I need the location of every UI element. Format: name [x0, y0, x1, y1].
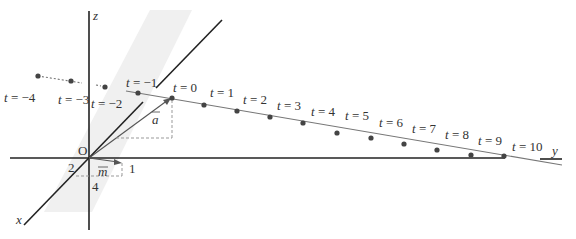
line-point [300, 120, 305, 125]
point-label: t = 5 [345, 108, 369, 123]
line-point [334, 130, 339, 135]
line-point [234, 108, 239, 113]
vector-a-label: a [152, 112, 159, 127]
point-label: t = 4 [311, 104, 335, 119]
line-point [201, 102, 206, 107]
origin-label: O [78, 143, 87, 158]
y-axis-label: y [550, 143, 558, 158]
vector-m-label: m [98, 164, 107, 179]
m-x-component: 2 [68, 160, 75, 175]
point-label: t = −4 [4, 90, 36, 105]
x-axis-label: x [15, 212, 22, 227]
z-axis-label: z [92, 8, 98, 23]
line-point [368, 135, 373, 140]
line-point [434, 147, 439, 152]
line-dotted-segment-1 [38, 76, 82, 83]
m-y-component: 1 [129, 161, 136, 176]
line-point [267, 114, 272, 119]
m-z-component: 4 [92, 179, 99, 194]
point-label: t = 2 [243, 92, 267, 107]
vector-line-diagram: t = −4t = −3t = −2t = −1t = 0t = 1t = 2t… [0, 0, 576, 239]
point-label: t = 6 [379, 115, 403, 130]
point-label: t = −1 [126, 75, 157, 90]
line-point [501, 153, 506, 158]
point-label: t = 8 [445, 127, 469, 142]
line-point [468, 152, 473, 157]
vector-m-arrowhead [114, 159, 122, 165]
line-point [35, 73, 40, 78]
point-label: t = −3 [58, 92, 89, 107]
line-dotted-segment-2 [96, 85, 101, 86]
point-label: t = 9 [478, 133, 502, 148]
line-point [102, 84, 107, 89]
parametric-line [126, 91, 562, 165]
point-label: t = 0 [173, 80, 197, 95]
line-point [68, 78, 73, 83]
line-point [401, 141, 406, 146]
point-label: t = −2 [91, 96, 122, 111]
diagram-svg: t = −4t = −3t = −2t = −1t = 0t = 1t = 2t… [0, 0, 576, 239]
point-label: t = 1 [210, 85, 234, 100]
point-label: t = 7 [412, 121, 436, 136]
point-label: t = 10 [512, 139, 542, 154]
line-point [169, 95, 174, 100]
line-point [135, 90, 140, 95]
point-label: t = 3 [277, 98, 301, 113]
